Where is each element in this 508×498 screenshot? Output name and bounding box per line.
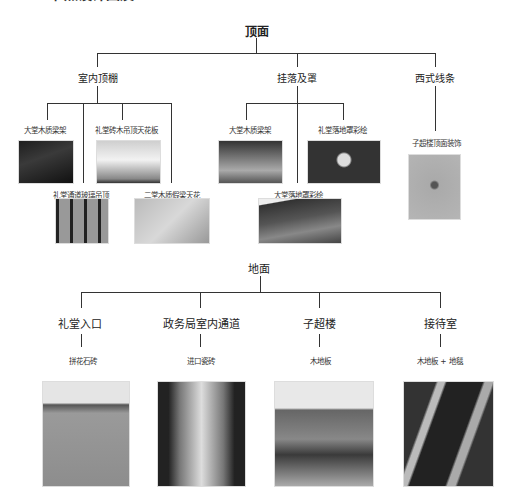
connector [83,103,84,183]
connector [200,334,201,347]
photo-painted-cover [307,140,381,184]
connector [81,292,440,293]
connector [246,103,247,120]
floor-material-label: 木地板 [310,355,331,366]
floor-material-label: 木地板 + 地毯 [417,355,463,366]
connector [81,292,82,308]
photo-corridor [157,381,246,487]
connector [97,86,98,103]
connector [47,103,172,104]
item-label: 子超楼顶面装饰 [412,137,461,148]
connector [47,103,48,120]
photo-dark-wood-beams [18,140,74,184]
cut-off-caption: 节点设计图及…… [50,0,380,5]
connector [81,334,82,347]
branch-label-hanging-cover: 挂落及罩 [277,70,317,85]
connector [97,53,98,67]
connector [97,53,435,54]
connector [435,86,436,131]
connector [246,103,344,104]
photo-glass-ceiling [55,198,109,244]
item-label: 礼堂砖木吊顶天花板 [95,124,158,135]
connector [343,103,344,120]
floor-material-label: 进口瓷砖 [187,355,215,366]
item-label: 礼堂落地罩彩绘 [318,124,367,135]
connector [440,334,441,347]
floor-branch-label: 礼堂入口 [58,315,102,331]
connector [319,334,320,347]
photo-wood-hanging [218,140,283,184]
photo-carpet [403,381,494,487]
connector [297,53,298,67]
connector [440,292,441,308]
photo-stone-floor [42,381,130,487]
ceiling-root-label: 顶面 [245,22,269,39]
photo-white-ceiling [96,140,161,184]
floor-root-label: 地面 [248,260,270,276]
item-label: 大堂木质梁架 [24,124,66,135]
floor-branch-label: 子超楼 [303,315,336,331]
connector [122,103,123,120]
photo-plain-ceiling [134,198,210,244]
floor-material-label: 拼花石砖 [69,355,97,366]
connector [435,53,436,67]
branch-label-indoor-ceiling: 室内顶棚 [78,70,118,85]
connector [297,86,298,183]
connector [319,292,320,308]
photo-western-ceiling [408,154,461,220]
connector [200,292,201,308]
photo-room [274,381,374,487]
connector [260,276,261,292]
connector [256,38,257,53]
photo-floor-cover [258,198,342,244]
item-label: 大堂木质梁架 [229,124,271,135]
floor-branch-label: 政务局室内通道 [163,315,240,331]
floor-branch-label: 接待室 [424,315,457,331]
connector [171,103,172,183]
branch-label-western-lines: 西式线条 [415,70,455,85]
